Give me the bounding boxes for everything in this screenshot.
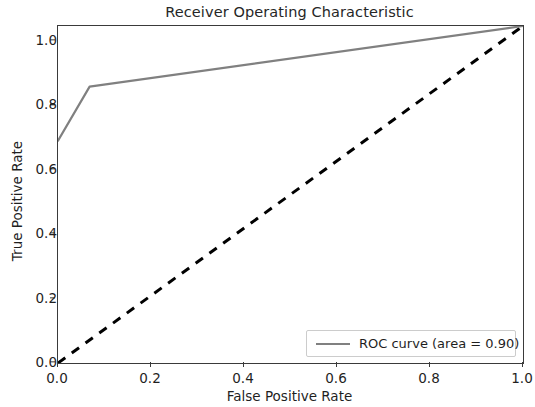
legend-entry-label: ROC curve (area = 0.90) (359, 336, 519, 351)
plot-svg (58, 26, 523, 363)
chart-legend: ROC curve (area = 0.90) (306, 330, 516, 357)
x-tick-label: 0.2 (120, 370, 180, 386)
x-axis-label: False Positive Rate (57, 388, 522, 404)
chance-diagonal-line (58, 26, 523, 363)
legend-line-swatch (315, 337, 351, 351)
x-tick-label: 0.4 (213, 370, 273, 386)
roc-curve-line (58, 26, 523, 141)
roc-chart-figure: Receiver Operating Characteristic 0.0 0.… (0, 0, 535, 407)
x-tick-label: 1.0 (492, 370, 535, 386)
x-tick-label: 0.8 (399, 370, 459, 386)
x-tick-label: 0.6 (306, 370, 366, 386)
x-tick-label: 0.0 (27, 370, 87, 386)
plot-area (57, 25, 524, 364)
